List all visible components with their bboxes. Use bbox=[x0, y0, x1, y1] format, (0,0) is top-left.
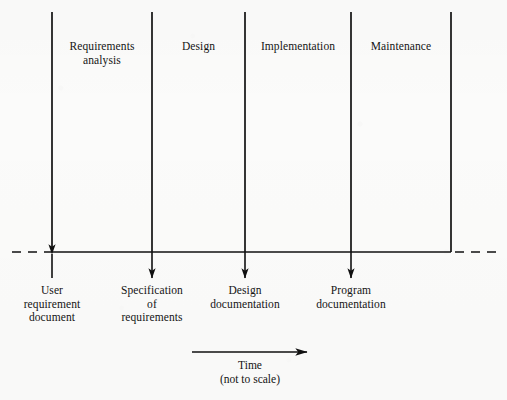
phase-label-implementation: Implementation bbox=[245, 40, 351, 54]
artifact-label-user-requirement-document: User requirement document bbox=[0, 284, 104, 325]
phase-label-line-1: Implementation bbox=[245, 40, 351, 54]
artifact-label-line-1: User bbox=[0, 284, 104, 298]
phase-label-line-1: Design bbox=[152, 40, 245, 54]
artifact-label-line-3: requirements bbox=[100, 311, 204, 325]
waterfall-lifecycle-diagram: Requirements analysis Design Implementat… bbox=[0, 0, 507, 400]
artifact-label-line-1: Design bbox=[191, 284, 299, 298]
artifact-label-program-documentation: Program documentation bbox=[297, 284, 405, 311]
time-axis-caption: Time (not to scale) bbox=[180, 358, 320, 386]
phase-label-design: Design bbox=[152, 40, 245, 54]
artifact-label-specification-of-requirements: Specification of requirements bbox=[100, 284, 204, 325]
artifact-label-design-documentation: Design documentation bbox=[191, 284, 299, 311]
phase-label-requirements-analysis: Requirements analysis bbox=[52, 40, 152, 67]
artifact-label-line-1: Program bbox=[297, 284, 405, 298]
artifact-label-line-3: document bbox=[0, 311, 104, 325]
artifact-label-line-2: of bbox=[100, 298, 204, 312]
artifact-label-line-1: Specification bbox=[100, 284, 204, 298]
artifact-label-line-2: documentation bbox=[297, 298, 405, 312]
phase-label-line-1: Maintenance bbox=[351, 40, 451, 54]
artifact-label-line-2: requirement bbox=[0, 298, 104, 312]
time-axis-caption-line-1: Time bbox=[180, 358, 320, 372]
artifact-label-line-2: documentation bbox=[191, 298, 299, 312]
phase-label-line-1: Requirements bbox=[52, 40, 152, 54]
artifact-arrows bbox=[52, 252, 351, 278]
phase-label-line-2: analysis bbox=[52, 54, 152, 68]
time-axis-caption-line-2: (not to scale) bbox=[180, 372, 320, 386]
phase-label-maintenance: Maintenance bbox=[351, 40, 451, 54]
